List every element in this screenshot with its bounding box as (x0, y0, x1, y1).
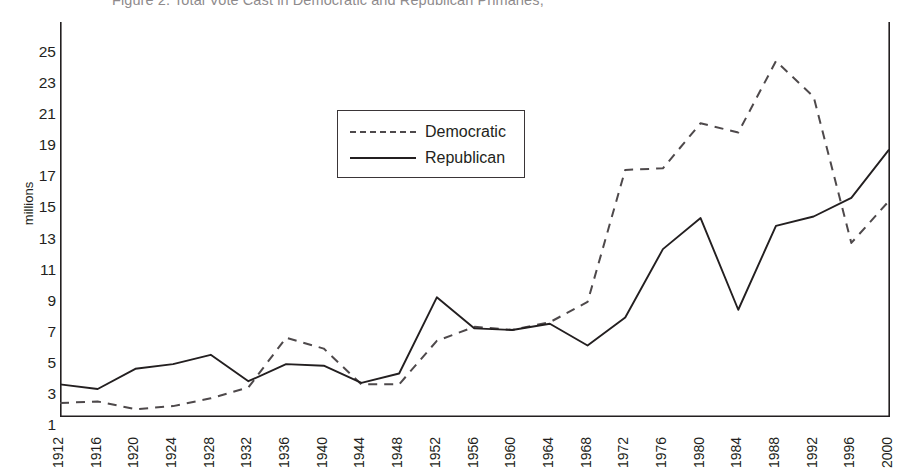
y-tick-label: 23 (22, 75, 56, 91)
x-tick-label: 1912 (51, 437, 65, 468)
y-tick-label: 7 (22, 324, 56, 340)
x-tick-label: 1996 (842, 437, 856, 468)
x-tick-label: 1944 (352, 437, 366, 468)
y-tick-label: 17 (22, 169, 56, 185)
figure-title: Figure 2. Total Vote Cast in Democratic … (112, 0, 544, 8)
y-tick-label: 19 (22, 138, 56, 154)
y-tick-label: 15 (22, 200, 56, 216)
chart-svg (60, 22, 890, 417)
x-axis-tick-labels: 1912191619201924192819321936194019441948… (60, 421, 890, 468)
y-tick-label: 25 (22, 44, 56, 60)
x-tick-label: 1968 (579, 437, 593, 468)
plot-area: Democratic Republican (60, 22, 890, 417)
x-tick-label: 1948 (390, 437, 404, 468)
x-tick-label: 1928 (202, 437, 216, 468)
x-tick-label: 1960 (503, 437, 517, 468)
x-tick-label: 1976 (654, 437, 668, 468)
legend-label-republican: Republican (425, 149, 505, 167)
x-tick-label: 2000 (880, 437, 894, 468)
x-tick-label: 1936 (277, 437, 291, 468)
x-tick-label: 1924 (164, 437, 178, 468)
x-tick-label: 1920 (126, 437, 140, 468)
y-tick-label: 5 (22, 355, 56, 371)
x-tick-label: 1932 (239, 437, 253, 468)
x-tick-label: 1940 (315, 437, 329, 468)
y-tick-label: 21 (22, 106, 56, 122)
legend-swatch-republican (350, 157, 416, 159)
x-tick-label: 1980 (692, 437, 706, 468)
x-tick-label: 1984 (729, 437, 743, 468)
x-tick-label: 1964 (541, 437, 555, 468)
x-tick-label: 1992 (805, 437, 819, 468)
legend-entry-republican: Republican (350, 147, 505, 169)
y-axis-tick-labels: 135791113151719212325 (18, 22, 56, 417)
x-tick-label: 1952 (428, 437, 442, 468)
figure-root: Figure 2. Total Vote Cast in Democratic … (0, 0, 909, 468)
y-tick-label: 13 (22, 231, 56, 247)
x-tick-label: 1956 (466, 437, 480, 468)
legend-label-democratic: Democratic (425, 123, 506, 141)
x-tick-label: 1916 (89, 437, 103, 468)
legend-swatch-democratic (350, 131, 416, 133)
y-tick-label: 1 (22, 417, 56, 433)
chart-legend: Democratic Republican (337, 110, 525, 178)
legend-entry-democratic: Democratic (350, 121, 506, 143)
x-tick-label: 1988 (767, 437, 781, 468)
x-tick-label: 1972 (616, 437, 630, 468)
series-line-republican (60, 150, 889, 389)
y-tick-label: 3 (22, 386, 56, 402)
y-tick-label: 11 (22, 262, 56, 278)
y-tick-label: 9 (22, 293, 56, 309)
